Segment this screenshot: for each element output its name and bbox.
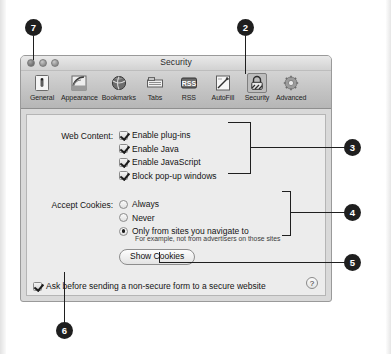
- window-titlebar: Security: [21, 56, 331, 71]
- help-button[interactable]: ?: [306, 277, 318, 289]
- callout-4: 4: [344, 204, 361, 221]
- toolbar-label-security: Security: [245, 94, 270, 101]
- page-edge-right: [386, 0, 391, 354]
- toolbar-label-appearance: Appearance: [61, 94, 98, 101]
- enable-java-checkbox[interactable]: [119, 144, 128, 153]
- accept-cookies-label: Accept Cookies:: [27, 200, 113, 210]
- enable-javascript-label: Enable JavaScript: [132, 157, 201, 167]
- window-title: Security: [21, 57, 331, 67]
- bracket-3: [228, 122, 251, 174]
- toolbar-item-bookmarks[interactable]: Bookmarks: [100, 73, 138, 101]
- leader-line-5-h: [159, 262, 345, 263]
- tabs-icon: [145, 73, 165, 93]
- callout-7: 7: [25, 19, 42, 36]
- leader-line-4: [290, 212, 345, 213]
- secure-form-label: Ask before sending a non-secure form to …: [46, 281, 266, 291]
- checkbox-row-enable-java[interactable]: Enable Java: [119, 144, 217, 154]
- toolbar-item-appearance[interactable]: Appearance: [59, 73, 100, 101]
- toolbar-item-security[interactable]: Security: [240, 73, 274, 101]
- cookies-always-radio[interactable]: [119, 200, 128, 209]
- bookmarks-icon: [109, 73, 129, 93]
- web-content-label: Web Content:: [27, 131, 113, 141]
- toolbar-item-general[interactable]: General: [25, 73, 59, 101]
- toolbar-label-general: General: [30, 94, 54, 101]
- autofill-icon: [213, 73, 233, 93]
- toolbar-item-autofill[interactable]: AutoFill: [206, 73, 240, 101]
- page-edge-left: [0, 0, 6, 354]
- secure-form-checkbox[interactable]: [33, 282, 42, 291]
- callout-5: 5: [344, 254, 361, 271]
- svg-text:RSS: RSS: [182, 80, 197, 87]
- enable-plugins-label: Enable plug-ins: [132, 130, 191, 140]
- leader-line-7: [33, 36, 34, 60]
- callout-6: 6: [56, 322, 73, 339]
- page-root: Security General: [0, 0, 391, 354]
- advanced-gear-icon: [281, 73, 301, 93]
- secure-form-row[interactable]: Ask before sending a non-secure form to …: [33, 281, 266, 291]
- cookies-example-note: For example, not from advertisers on tho…: [135, 235, 280, 242]
- security-lock-icon: [247, 73, 267, 93]
- checkbox-row-enable-javascript[interactable]: Enable JavaScript: [119, 157, 217, 167]
- cookies-never-label: Never: [132, 213, 155, 223]
- leader-line-2: [245, 36, 246, 74]
- radio-row-always[interactable]: Always: [119, 199, 280, 209]
- cookies-always-label: Always: [132, 199, 159, 209]
- block-popups-label: Block pop-up windows: [132, 171, 217, 181]
- checkbox-row-enable-plugins[interactable]: Enable plug-ins: [119, 130, 217, 140]
- checkbox-row-block-popups[interactable]: Block pop-up windows: [119, 171, 217, 181]
- callout-2: 2: [237, 19, 254, 36]
- general-icon: [32, 73, 52, 93]
- cookies-never-radio[interactable]: [119, 213, 128, 222]
- leader-line-6: [64, 272, 65, 328]
- appearance-icon: [69, 73, 89, 93]
- rss-icon: RSS: [179, 73, 199, 93]
- preferences-window: Security General: [20, 55, 332, 302]
- toolbar-label-bookmarks: Bookmarks: [102, 94, 136, 101]
- toolbar-item-rss[interactable]: RSS RSS: [172, 73, 206, 101]
- enable-javascript-checkbox[interactable]: [119, 158, 128, 167]
- radio-row-never[interactable]: Never: [119, 213, 280, 223]
- accept-cookies-group: Accept Cookies: Always Never Only from s…: [27, 199, 307, 265]
- enable-java-label: Enable Java: [132, 144, 179, 154]
- enable-plugins-checkbox[interactable]: [119, 131, 128, 140]
- toolbar-label-tabs: Tabs: [148, 94, 162, 101]
- toolbar-item-tabs[interactable]: Tabs: [138, 73, 172, 101]
- leader-line-3: [250, 147, 345, 148]
- security-settings-panel: Web Content: Enable plug-ins Enable Java…: [26, 114, 326, 296]
- toolbar-label-advanced: Advanced: [276, 94, 306, 101]
- toolbar-label-autofill: AutoFill: [212, 94, 235, 101]
- cookies-only-navigated-radio[interactable]: [119, 227, 128, 236]
- block-popups-checkbox[interactable]: [119, 171, 128, 180]
- bracket-4: [282, 191, 291, 236]
- toolbar-item-advanced[interactable]: Advanced: [274, 73, 308, 101]
- preferences-toolbar: General Appearance: [21, 71, 331, 109]
- callout-3: 3: [344, 139, 361, 156]
- toolbar-label-rss: RSS: [182, 94, 196, 101]
